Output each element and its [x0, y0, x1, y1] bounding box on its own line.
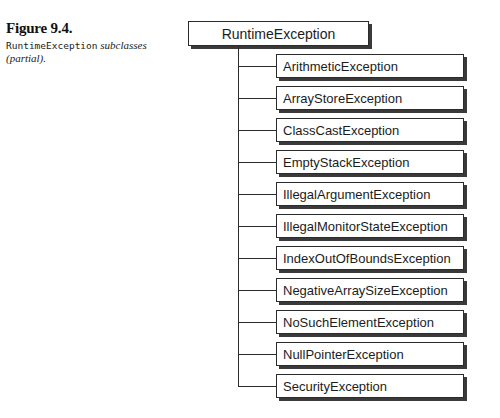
branch-connector-line: [238, 226, 276, 227]
caption-text-line2: (partial).: [6, 52, 46, 64]
subclass-box: ArrayStoreException: [276, 86, 464, 110]
caption-code-term: RuntimeException: [6, 40, 98, 51]
subclass-label: NoSuchElementException: [283, 315, 434, 330]
branch-connector-line: [238, 386, 276, 387]
caption-text: subclasses: [98, 39, 147, 51]
subclass-label: ClassCastException: [283, 123, 399, 138]
subclass-box: SecurityException: [276, 374, 464, 398]
subclass-label: ArithmeticException: [283, 59, 398, 74]
figure-caption: Figure 9.4. RuntimeException subclasses …: [6, 20, 166, 65]
subclass-label: IllegalMonitorStateException: [283, 219, 448, 234]
branch-connector-line: [238, 66, 276, 67]
branch-connector-line: [238, 258, 276, 259]
subclass-label: NullPointerException: [283, 347, 404, 362]
branch-connector-line: [238, 322, 276, 323]
subclass-label: EmptyStackException: [283, 155, 409, 170]
figure-number: Figure 9.4.: [6, 20, 166, 36]
subclass-box: EmptyStackException: [276, 150, 464, 174]
subclass-box: NegativeArraySizeException: [276, 278, 464, 302]
branch-connector-line: [238, 98, 276, 99]
figure-description: RuntimeException subclasses (partial).: [6, 39, 166, 65]
branch-connector-line: [238, 354, 276, 355]
branch-connector-line: [238, 194, 276, 195]
subclass-label: IndexOutOfBoundsException: [283, 251, 451, 266]
subclass-label: SecurityException: [283, 379, 387, 394]
subclass-label: IllegalArgumentException: [283, 187, 430, 202]
subclass-box: NullPointerException: [276, 342, 464, 366]
subclass-label: NegativeArraySizeException: [283, 283, 448, 298]
subclass-label: ArrayStoreException: [283, 91, 402, 106]
subclass-box: IllegalMonitorStateException: [276, 214, 464, 238]
subclass-box: NoSuchElementException: [276, 310, 464, 334]
subclass-box: IllegalArgumentException: [276, 182, 464, 206]
root-class-label: RuntimeException: [222, 26, 336, 42]
branch-connector-line: [238, 290, 276, 291]
subclass-box: ArithmeticException: [276, 54, 464, 78]
branch-connector-line: [238, 130, 276, 131]
subclass-box: IndexOutOfBoundsException: [276, 246, 464, 270]
subclass-box: ClassCastException: [276, 118, 464, 142]
root-class-box: RuntimeException: [188, 21, 369, 46]
branch-connector-line: [238, 162, 276, 163]
